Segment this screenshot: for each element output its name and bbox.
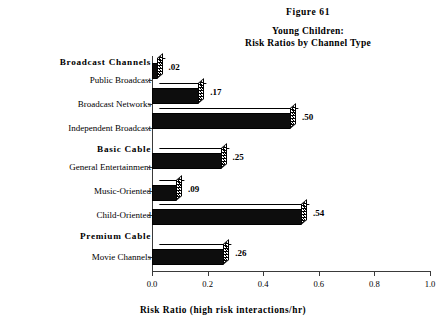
category-label: Public Broadcast [0,75,151,85]
group-label: Basic Cable [0,144,151,154]
bar-top-face [154,244,232,249]
chart-title: Young Children: Risk Ratios by Channel T… [200,26,416,49]
x-tick-label: 0.4 [243,279,283,289]
bar: .50 [152,108,291,124]
x-tick-label: 0.6 [299,279,339,289]
bar: .26 [152,244,224,260]
x-tick [208,272,209,276]
y-tick [148,80,152,81]
bar: .09 [152,180,177,196]
bar-side-face [157,53,163,79]
bar-value-label: .02 [169,62,180,72]
category-label: Music-Oriented [0,186,151,196]
bar: .25 [152,148,222,164]
x-axis-title: Risk Ratio (high risk interactions/hr) [0,305,446,315]
category-label: Child-Oriented [0,210,151,220]
bar-value-label: .17 [210,87,221,97]
figure-chart: Figure 61 Young Children: Risk Ratios by… [0,0,446,331]
bar-top-face [154,204,310,209]
category-label: Independent Broadcast [0,123,151,133]
x-tick-label: 0.2 [188,279,228,289]
category-label: General Entertainment [0,162,151,172]
x-tick [152,272,153,276]
bar-value-label: .09 [188,184,199,194]
x-tick [430,272,431,276]
bar: .02 [152,58,158,74]
bar-value-label: .26 [235,248,246,258]
category-label: Broadcast Networks [0,99,151,109]
bar-top-face [154,148,229,153]
group-label: Broadcast Channels [0,57,151,67]
bar-value-label: .50 [302,112,313,122]
bar: .54 [152,204,302,220]
bar-value-label: .25 [233,152,244,162]
bar-side-face [198,78,204,104]
y-tick [148,104,152,105]
chart-title-line2: Risk Ratios by Channel Type [200,38,416,50]
x-tick [319,272,320,276]
bar-side-face [290,103,296,129]
bar: .17 [152,83,199,99]
x-axis-line [152,271,431,272]
bar-side-face [301,199,307,225]
bar-front-face [152,209,302,225]
plot-area: 0.00.20.40.60.81.0 .02.17.50.25.09.54.26 [152,56,430,272]
x-tick [263,272,264,276]
bar-value-label: .54 [313,208,324,218]
bar-front-face [152,249,224,265]
x-tick-label: 1.0 [410,279,446,289]
figure-number: Figure 61 [218,7,398,17]
bar-front-face [152,185,177,201]
x-tick-label: 0.8 [354,279,394,289]
chart-title-line1: Young Children: [200,26,416,38]
x-tick-label: 0.0 [132,279,172,289]
group-label: Premium Cable [0,231,151,241]
bar-top-face [154,108,299,113]
x-tick [374,272,375,276]
bar-side-face [176,175,182,201]
bar-front-face [152,88,199,104]
bar-front-face [152,113,291,129]
bar-side-face [223,239,229,265]
bar-front-face [152,153,222,169]
bar-side-face [221,143,227,169]
category-label: Movie Channels [0,252,151,262]
